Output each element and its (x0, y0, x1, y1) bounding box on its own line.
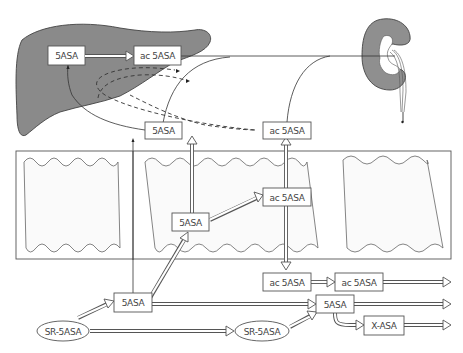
blood-ac5asa-to-kidney (287, 56, 330, 122)
node-blood-ac5asa: ac 5ASA (263, 122, 311, 139)
svg-text:SR-5ASA: SR-5ASA (244, 327, 282, 337)
svg-text:5ASA: 5ASA (152, 126, 176, 136)
svg-text:5ASA: 5ASA (55, 51, 79, 61)
node-cell-5asa: 5ASA (172, 213, 209, 231)
node-liver-ac5asa: ac 5ASA (134, 46, 181, 65)
node-liver-5asa: 5ASA (48, 46, 85, 65)
node-lumen-ac5asa-1: ac 5ASA (263, 273, 311, 291)
svg-text:ac 5ASA: ac 5ASA (269, 126, 305, 136)
svg-text:ac 5ASA: ac 5ASA (269, 193, 305, 203)
svg-text:5ASA: 5ASA (179, 218, 203, 228)
svg-text:ac 5ASA: ac 5ASA (341, 278, 377, 288)
node-lumen-5asa-upper: 5ASA (114, 293, 152, 312)
enterocyte-3 (343, 156, 443, 252)
svg-text:ac 5ASA: ac 5ASA (140, 51, 176, 61)
svg-text:SR-5ASA: SR-5ASA (45, 327, 83, 337)
node-sr5asa-2: SR-5ASA (235, 321, 289, 341)
svg-text:X-ASA: X-ASA (371, 321, 398, 331)
enterocyte-1 (24, 158, 120, 252)
svg-text:5ASA: 5ASA (324, 300, 348, 310)
kidney-shape (362, 19, 410, 123)
svg-text:5ASA: 5ASA (122, 298, 146, 308)
node-lumen-ac5asa-2: ac 5ASA (335, 273, 383, 291)
blood-5asa-to-circulation (163, 57, 230, 123)
svg-text:ac 5ASA: ac 5ASA (269, 278, 305, 288)
node-x-asa: X-ASA (364, 316, 404, 335)
5asa-metabolism-diagram: 5ASA ac 5ASA 5ASA ac 5ASA 5ASA ac 5A (0, 0, 463, 353)
node-cell-ac5asa: ac 5ASA (263, 188, 311, 206)
node-lumen-5asa-lower: 5ASA (316, 295, 354, 313)
node-sr5asa-1: SR-5ASA (37, 321, 89, 341)
node-blood-5asa: 5ASA (145, 122, 182, 139)
